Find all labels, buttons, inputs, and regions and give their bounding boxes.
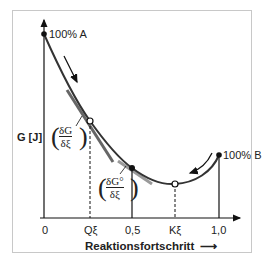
x-axis-label-text: Reaktionsfortschritt <box>85 240 194 252</box>
tangent-half-numerator: δG° <box>106 175 124 188</box>
y-axis-label: G [J] <box>17 131 42 143</box>
tick-q: Qξ <box>84 224 97 236</box>
tick-half: 0,5 <box>125 224 140 236</box>
q-point <box>87 118 93 124</box>
tangent-q-denominator: δξ <box>59 137 72 149</box>
tangent-q-numerator: δG <box>59 124 72 137</box>
half-point <box>129 165 135 171</box>
tick-k: Kξ <box>169 224 181 236</box>
tick-0: 0 <box>42 224 48 236</box>
tangent-label-half: ( δG° δξ ) <box>100 175 124 200</box>
k-point <box>172 181 178 187</box>
leader-half <box>120 166 126 174</box>
start-point <box>41 31 47 37</box>
tangent-label-q: ( δG δξ ) <box>53 124 72 149</box>
tick-1: 1,0 <box>211 224 226 236</box>
start-label: 100% A <box>49 28 87 40</box>
x-axis-label: Reaktionsfortschritt ⟶ <box>85 239 217 253</box>
end-point <box>216 152 222 158</box>
x-axis-label-arrow-icon: ⟶ <box>200 240 217 252</box>
end-label: 100% B <box>223 149 262 161</box>
gibbs-curve <box>44 34 219 184</box>
tangent-half-denominator: δξ <box>106 188 124 200</box>
